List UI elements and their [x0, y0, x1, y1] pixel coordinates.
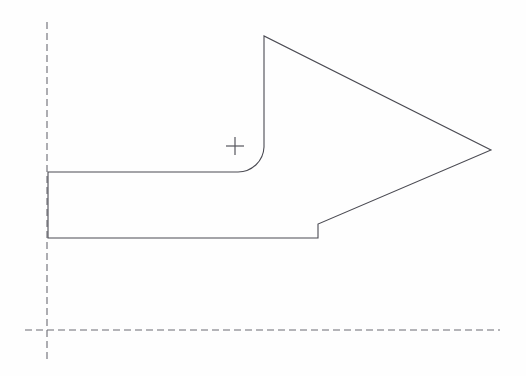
center-crosshair-marker — [226, 137, 244, 155]
drawing-canvas: CAD Profile View — [0, 0, 526, 376]
arrow-profile-outline — [48, 36, 491, 238]
technical-drawing — [0, 0, 526, 376]
